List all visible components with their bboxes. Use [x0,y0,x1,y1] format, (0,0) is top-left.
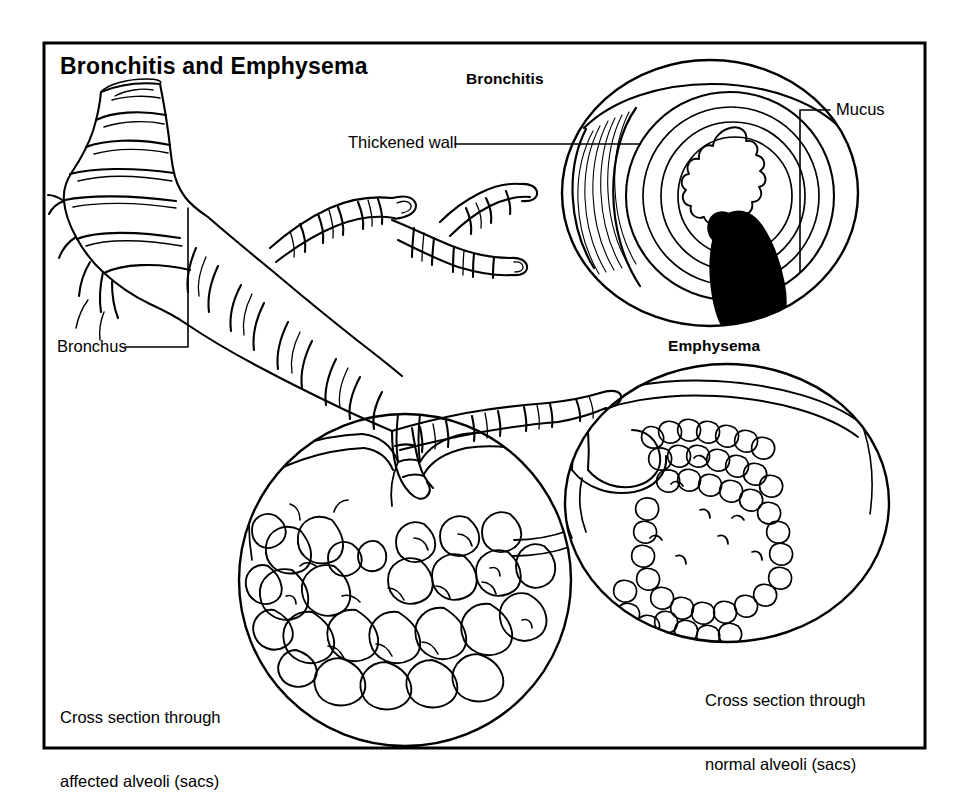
caption-normal-alveoli: Cross section through normal alveoli (sa… [705,648,866,794]
caption-affected-alveoli: Cross section through affected alveoli (… [60,665,221,794]
page-title: Bronchitis and Emphysema [60,53,368,80]
label-thickened-wall: Thickened wall [348,133,457,152]
heading-emphysema: Emphysema [668,337,760,355]
caption-affected-line-2: affected alveoli (sacs) [60,771,221,792]
caption-affected-line-1: Cross section through [60,707,221,728]
caption-normal-line-2: normal alveoli (sacs) [705,754,866,775]
label-bronchus: Bronchus [57,337,127,356]
label-mucus: Mucus [836,100,885,119]
caption-normal-line-1: Cross section through [705,690,866,711]
heading-bronchitis: Bronchitis [466,70,544,88]
